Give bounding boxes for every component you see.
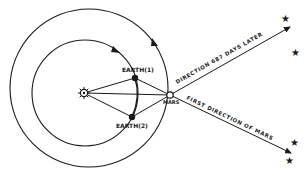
earth2-label: EARTH(2) [116, 122, 148, 129]
sun-mars-line [84, 93, 170, 95]
mars-orbit [10, 9, 168, 167]
sun-earth1-line [84, 78, 135, 93]
earth1-mars-line [135, 78, 170, 95]
star-icon: ★ [281, 13, 290, 24]
mars-orbit-arrow-icon [151, 38, 158, 46]
star-icon: ★ [291, 47, 300, 58]
earth2-dot [129, 114, 135, 120]
mars-orbit-diagram: EARTH(1) EARTH(2) MARS DIRECTION 687 DAY… [0, 0, 306, 179]
direction-later-label: DIRECTION 687 DAYS LATER [175, 31, 264, 85]
sun-earth2-line [84, 93, 132, 117]
star-icon: ★ [290, 137, 299, 148]
sun-icon [78, 87, 90, 99]
earth-arc [132, 78, 137, 117]
earth1-dot [132, 75, 138, 81]
earth1-label: EARTH(1) [122, 66, 154, 73]
first-direction-line [170, 95, 291, 153]
first-direction-label: FIRST DIRECTION OF MARS [186, 94, 275, 141]
mars-label: MARS [163, 99, 180, 105]
direction-later-line [170, 27, 290, 95]
star-icon: ★ [285, 155, 294, 166]
mars-dot [167, 92, 173, 98]
